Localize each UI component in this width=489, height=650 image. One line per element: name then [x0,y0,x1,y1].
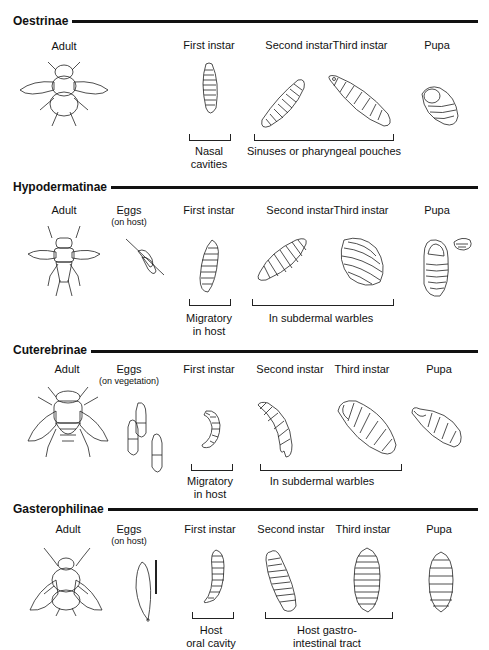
adult-fly-illustration [26,385,110,461]
location-label: In subdermal warbles [269,312,374,325]
adult-fly-illustration [26,546,106,616]
stage-label-pupa: Pupa [424,39,450,52]
section-cuterebrinae: Cuterebrinae Adult Eggs (on vegetation) … [0,343,489,493]
third-instar-illustration [336,399,398,457]
section-hypodermatinae: Hypodermatinae Adult Eggs (on host) Firs… [0,180,489,330]
stage-label-first-instar: First instar [183,39,234,52]
stage-label-adult: Adult [51,204,76,217]
stage-label-second-instar: Second instar [256,363,323,376]
third-instar-illustration [336,236,386,288]
second-instar-illustration [264,548,300,614]
stage-label-third-instar: Third instar [335,523,390,536]
pupa-illustration [410,405,464,449]
first-instar-illustration [200,409,224,451]
location-bracket [265,612,393,619]
stage-label-third-instar: Third instar [333,204,388,217]
location-bracket [254,134,394,141]
second-instar-illustration [258,76,310,130]
location-label: Sinuses or pharyngeal pouches [247,145,401,158]
second-instar-illustration [254,236,308,284]
stage-label-first-instar: First instar [184,523,235,536]
stage-label-eggs: Eggs [116,363,141,376]
section-title: Oestrinae [13,14,68,28]
location-label: In subdermal warbles [270,475,375,488]
stage-label-eggs: Eggs [116,204,141,217]
stage-sublabel-eggs: (on host) [111,536,147,547]
location-label: Host gastro- intestinal tract [293,624,361,650]
eggs-illustration [126,401,166,477]
pupa-illustration [418,84,460,128]
location-label: Host oral cavity [186,624,236,650]
location-bracket [191,464,233,471]
section-title: Cuterebrinae [13,343,87,357]
location-bracket [260,464,402,471]
section-rule-oestrinae [72,20,478,23]
stage-label-adult: Adult [54,363,79,376]
stage-label-second-instar: Second instar [265,39,332,52]
first-instar-illustration [200,548,228,606]
section-rule-gasterophilinae [108,508,478,511]
eggs-illustration [124,237,166,281]
section-oestrinae: Oestrinae Adult First instar Second inst… [0,14,489,164]
adult-fly-illustration [26,224,102,300]
egg-illustration [134,558,160,622]
adult-fly-illustration [18,58,110,130]
pupa-illustration [427,550,455,614]
location-label: Migratory in host [187,475,233,501]
stage-label-eggs: Eggs [116,523,141,536]
stage-label-adult: Adult [51,40,76,53]
stage-label-adult: Adult [55,523,80,536]
stage-label-second-instar: Second instar [266,204,333,217]
location-bracket [192,612,234,619]
first-instar-illustration [198,62,222,118]
location-bracket [252,299,394,306]
location-label: Nasal cavities [191,145,228,171]
stage-label-third-instar: Third instar [334,363,389,376]
stage-label-second-instar: Second instar [257,523,324,536]
section-title: Hypodermatinae [13,180,107,194]
stage-label-pupa: Pupa [426,523,452,536]
stage-label-pupa: Pupa [424,204,450,217]
first-instar-illustration [198,238,222,294]
third-instar-illustration [326,74,394,130]
third-instar-illustration [352,546,382,614]
stage-label-first-instar: First instar [183,204,234,217]
section-title: Gasterophilinae [13,502,104,516]
location-bracket [189,134,231,141]
section-rule-hypodermatinae [111,186,478,189]
section-gasterophilinae: Gasterophilinae Adult Eggs (on host) Fir… [0,502,489,645]
stage-label-first-instar: First instar [183,363,234,376]
section-rule-cuterebrinae [91,350,478,353]
stage-label-third-instar: Third instar [332,39,387,52]
stage-sublabel-eggs: (on host) [111,217,147,228]
pupa-illustration [420,236,474,298]
stage-label-pupa: Pupa [426,363,452,376]
second-instar-illustration [256,401,298,459]
location-label: Migratory in host [186,312,232,338]
location-bracket [189,299,231,306]
